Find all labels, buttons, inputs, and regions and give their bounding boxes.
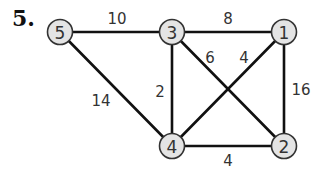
node-2: 2 xyxy=(272,134,297,159)
node-3: 3 xyxy=(160,20,185,45)
node-label: 3 xyxy=(167,23,178,43)
node-1: 1 xyxy=(272,20,297,45)
weighted-graph: 10864214164 53142 xyxy=(0,0,331,171)
edge-weight-5-4: 14 xyxy=(91,92,110,110)
edge-weight-1-4: 4 xyxy=(239,49,249,67)
edge-weight-5-3: 10 xyxy=(107,10,126,28)
edge-weight-4-2: 4 xyxy=(223,152,233,170)
edge-weight-1-2: 16 xyxy=(291,81,310,99)
edge-weight-3-1: 8 xyxy=(223,10,233,28)
node-label: 2 xyxy=(279,137,290,157)
edge-weight-3-4: 2 xyxy=(155,83,165,101)
node-5: 5 xyxy=(48,20,73,45)
node-4: 4 xyxy=(160,134,185,159)
edge-weight-3-2: 6 xyxy=(205,49,215,67)
edges xyxy=(60,32,284,146)
node-label: 5 xyxy=(55,23,66,43)
node-label: 1 xyxy=(279,23,290,43)
node-label: 4 xyxy=(167,137,178,157)
